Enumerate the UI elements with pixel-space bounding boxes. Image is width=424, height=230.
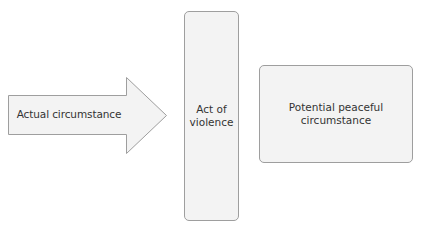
- potential-peaceful-label-line2: circumstance: [289, 114, 383, 127]
- potential-peaceful-label-line1: Potential peaceful: [289, 101, 383, 114]
- potential-peaceful-circumstance-box: Potential peaceful circumstance: [259, 65, 413, 163]
- act-of-violence-label-line1: Act of: [190, 103, 234, 116]
- actual-circumstance-label: Actual circumstance: [14, 108, 124, 121]
- act-of-violence-label-line2: violence: [190, 116, 234, 129]
- act-of-violence-box: Act of violence: [184, 11, 239, 221]
